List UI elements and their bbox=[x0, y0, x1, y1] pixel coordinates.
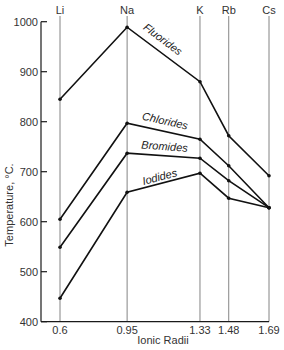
x-axis-title: Ionic Radii bbox=[137, 334, 188, 346]
data-point bbox=[58, 296, 62, 300]
y-tick-label: 800 bbox=[20, 116, 38, 128]
y-tick-label: 900 bbox=[20, 66, 38, 78]
data-point bbox=[198, 171, 202, 175]
series-labels: FluoridesChloridesBromidesIodides bbox=[141, 21, 190, 187]
data-point bbox=[198, 137, 202, 141]
data-point bbox=[58, 245, 62, 249]
x-tick-label: 0.95 bbox=[116, 324, 137, 336]
y-axis-ticks: 4005006007008009001000 bbox=[14, 16, 47, 328]
data-point bbox=[267, 206, 271, 210]
chart: 4005006007008009001000 0.60.951.331.481.… bbox=[0, 0, 284, 350]
y-axis-title: Temperature, °C. bbox=[3, 163, 15, 246]
data-point bbox=[58, 217, 62, 221]
cation-label: Na bbox=[120, 4, 135, 16]
series-line-fluorides bbox=[60, 27, 269, 176]
cation-label: K bbox=[196, 4, 204, 16]
series-label-bromides: Bromides bbox=[141, 139, 189, 154]
y-tick-label: 400 bbox=[20, 316, 38, 328]
series-lines bbox=[58, 25, 271, 300]
data-point bbox=[227, 179, 231, 183]
x-tick-label: 1.48 bbox=[218, 324, 239, 336]
data-point bbox=[58, 97, 62, 101]
y-tick-label: 600 bbox=[20, 216, 38, 228]
cation-labels: LiNaKRbCs bbox=[56, 4, 276, 16]
x-tick-label: 1.33 bbox=[189, 324, 210, 336]
data-point bbox=[227, 134, 231, 138]
x-tick-label: 1.69 bbox=[258, 324, 279, 336]
data-point bbox=[125, 121, 129, 125]
y-tick-label: 700 bbox=[20, 166, 38, 178]
series-line-iodides bbox=[60, 173, 269, 298]
series-label-fluorides: Fluorides bbox=[141, 21, 185, 58]
data-point bbox=[227, 164, 231, 168]
cation-label: Cs bbox=[262, 4, 276, 16]
data-point bbox=[125, 151, 129, 155]
data-point bbox=[267, 174, 271, 178]
data-point bbox=[198, 156, 202, 160]
data-point bbox=[125, 25, 129, 29]
x-tick-label: 0.6 bbox=[52, 324, 67, 336]
cation-label: Rb bbox=[222, 4, 236, 16]
data-point bbox=[125, 190, 129, 194]
y-tick-label: 500 bbox=[20, 266, 38, 278]
data-point bbox=[198, 80, 202, 84]
data-point bbox=[227, 196, 231, 200]
y-tick-label: 1000 bbox=[14, 16, 38, 28]
cation-label: Li bbox=[56, 4, 65, 16]
